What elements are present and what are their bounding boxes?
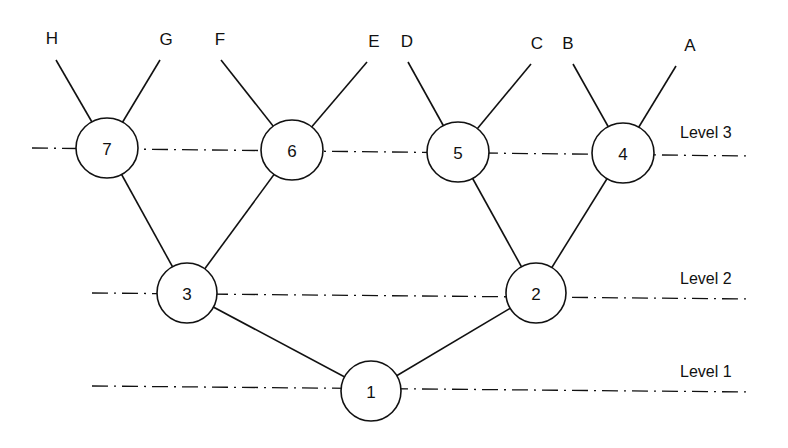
node-label: 5 bbox=[453, 144, 462, 163]
level-label: Level 1 bbox=[680, 363, 732, 380]
node-label: 3 bbox=[182, 285, 191, 304]
tree-nodes: 1234567 bbox=[76, 118, 654, 421]
node-3: 3 bbox=[157, 263, 217, 323]
node-label: 7 bbox=[102, 140, 111, 159]
leaf-label-c: C bbox=[531, 34, 543, 53]
level-line bbox=[92, 386, 752, 392]
node-5: 5 bbox=[427, 122, 489, 182]
level-label: Level 3 bbox=[680, 124, 732, 141]
node-7: 7 bbox=[76, 118, 138, 178]
leaf-labels: HGFEDCBA bbox=[46, 29, 696, 55]
edge-1-3 bbox=[187, 293, 371, 391]
tree-diagram: 1234567 HGFEDCBA Level 3Level 2Level 1 bbox=[0, 0, 788, 448]
leaf-label-e: E bbox=[368, 32, 379, 51]
node-label: 1 bbox=[366, 383, 375, 402]
leaf-label-a: A bbox=[684, 36, 696, 55]
level-lines bbox=[32, 148, 752, 392]
tree-edges bbox=[56, 60, 676, 391]
node-1: 1 bbox=[341, 361, 401, 421]
leaf-label-g: G bbox=[159, 30, 172, 49]
node-4: 4 bbox=[592, 123, 654, 183]
leaf-label-h: H bbox=[46, 29, 58, 48]
node-6: 6 bbox=[261, 120, 323, 180]
leaf-label-f: F bbox=[215, 30, 225, 49]
tree-canvas: 1234567 HGFEDCBA Level 3Level 2Level 1 bbox=[0, 0, 788, 448]
level-labels: Level 3Level 2Level 1 bbox=[680, 124, 732, 380]
leaf-label-b: B bbox=[562, 34, 573, 53]
node-label: 6 bbox=[287, 142, 296, 161]
node-label: 2 bbox=[531, 285, 540, 304]
leaf-label-d: D bbox=[401, 32, 413, 51]
node-2: 2 bbox=[506, 263, 566, 323]
node-label: 4 bbox=[618, 145, 627, 164]
level-label: Level 2 bbox=[680, 270, 732, 287]
